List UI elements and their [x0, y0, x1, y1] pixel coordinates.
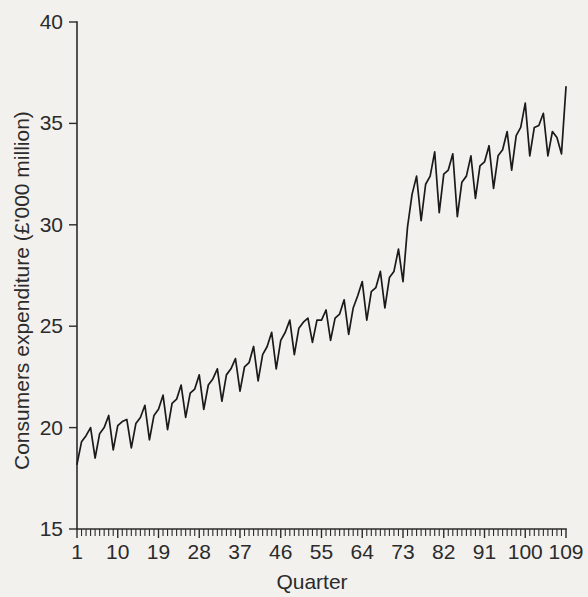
y-axis-tick-labels: 152025303540 — [40, 10, 63, 540]
x-tick-label: 1 — [71, 540, 83, 563]
y-axis-ticks — [69, 22, 77, 529]
x-tick-label: 100 — [508, 540, 543, 563]
x-tick-label: 55 — [310, 540, 333, 563]
x-tick-label: 82 — [432, 540, 455, 563]
x-tick-label: 64 — [351, 540, 375, 563]
y-tick-label: 40 — [40, 10, 63, 33]
x-tick-label: 91 — [473, 540, 496, 563]
data-series-line — [77, 87, 566, 464]
x-axis-tick-labels: 110192837465564738291100109 — [71, 540, 583, 563]
y-tick-label: 35 — [40, 111, 63, 134]
x-tick-label: 73 — [391, 540, 414, 563]
x-tick-label: 19 — [147, 540, 170, 563]
chart-page: 152025303540 110192837465564738291100109… — [0, 0, 588, 597]
x-tick-label: 10 — [106, 540, 129, 563]
y-axis-title: Consumers expenditure (£'000 million) — [10, 111, 33, 470]
y-tick-label: 15 — [40, 517, 63, 540]
y-tick-label: 30 — [40, 213, 63, 236]
y-tick-label: 20 — [40, 416, 63, 439]
x-tick-label: 109 — [548, 540, 583, 563]
x-tick-label: 37 — [228, 540, 251, 563]
x-axis-minor-ticks — [77, 529, 566, 538]
plot-area: 152025303540 110192837465564738291100109 — [40, 10, 584, 563]
y-tick-label: 25 — [40, 314, 63, 337]
line-chart: 152025303540 110192837465564738291100109… — [0, 0, 588, 597]
x-tick-label: 28 — [188, 540, 211, 563]
x-axis-title: Quarter — [276, 570, 347, 593]
x-tick-label: 46 — [269, 540, 292, 563]
